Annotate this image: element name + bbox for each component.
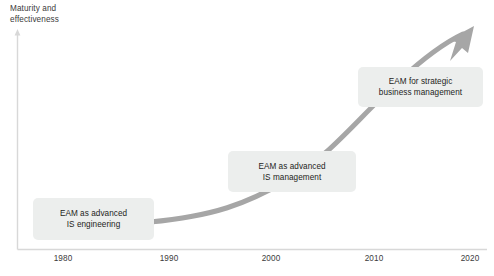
stage-box-label: EAM for strategic business management	[379, 76, 462, 98]
x-tick-1990: 1990	[160, 254, 179, 263]
stage-box-is-management: EAM as advanced IS management	[228, 151, 356, 192]
x-tick-2020: 2020	[461, 254, 480, 263]
maturity-growth-curve	[150, 26, 474, 222]
stage-box-is-engineering: EAM as advanced IS engineering	[33, 198, 154, 240]
x-tick-2010: 2010	[365, 254, 384, 263]
diagram-canvas: Maturity and effectiveness EAM as advanc…	[0, 0, 494, 276]
stage-box-label: EAM as advanced IS management	[258, 161, 325, 183]
x-tick-2000: 2000	[262, 254, 281, 263]
stage-box-strategic-business-management: EAM for strategic business management	[358, 67, 483, 107]
x-tick-1980: 1980	[54, 254, 73, 263]
stage-box-label: EAM as advanced IS engineering	[60, 208, 127, 230]
y-axis	[15, 29, 21, 250]
y-axis-label: Maturity and effectiveness	[10, 4, 120, 25]
